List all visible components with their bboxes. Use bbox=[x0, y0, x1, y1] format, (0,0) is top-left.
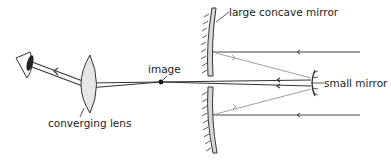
eye-icon bbox=[16, 52, 35, 78]
image-label: image bbox=[148, 63, 181, 75]
large-mirror-label: large concave mirror bbox=[229, 6, 339, 18]
small-mirror-label: small mirror bbox=[324, 77, 388, 89]
small-mirror bbox=[312, 70, 318, 96]
telescope-diagram: image large concave mirr bbox=[0, 0, 391, 160]
converging-lens bbox=[81, 55, 97, 113]
lens-label: converging lens bbox=[48, 117, 131, 129]
large-concave-mirror bbox=[201, 8, 217, 153]
